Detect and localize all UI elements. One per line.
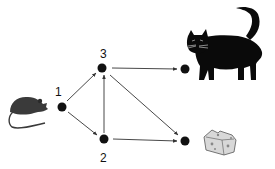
node-cat [181, 65, 190, 74]
node-label-2: 2 [100, 151, 107, 165]
edge-3-to-cheese [110, 75, 178, 135]
maze-graph-diagram: 1 3 2 [0, 0, 275, 169]
mouse-icon [9, 97, 48, 128]
edge-2-to-cheese [113, 139, 177, 141]
edge-3-to-cat [112, 68, 177, 69]
edge-1-to-2 [68, 112, 97, 135]
edge-1-to-3 [67, 73, 96, 101]
node-cheese [181, 137, 190, 146]
node-1 [58, 103, 67, 112]
nodes [58, 64, 190, 146]
edges [67, 68, 178, 141]
node-2 [100, 135, 109, 144]
node-label-1: 1 [55, 85, 62, 99]
cheese-icon [204, 130, 236, 155]
cat-icon [187, 7, 262, 80]
node-3 [98, 64, 107, 73]
node-label-3: 3 [100, 47, 107, 61]
